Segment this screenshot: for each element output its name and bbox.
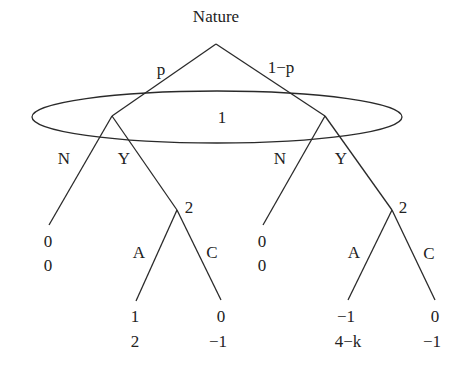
edge-right-N: [263, 116, 325, 225]
move-label-right-Y: Y: [335, 149, 347, 168]
information-set-player-label: 1: [218, 108, 227, 127]
nature-label: Nature: [193, 7, 239, 26]
payoff-left-A-p1: 1: [131, 307, 140, 326]
payoff-left-N-p1: 0: [44, 232, 53, 251]
move-label-left-C: C: [206, 243, 217, 262]
player2-left-node-label: 2: [185, 198, 194, 217]
edge-nature-p: [112, 44, 216, 116]
payoff-right-N-p1: 0: [258, 232, 267, 251]
move-label-right-A: A: [348, 243, 361, 262]
move-label-p: p: [157, 60, 166, 79]
move-label-left-A: A: [133, 243, 146, 262]
payoff-right-A-p2: 4−k: [335, 332, 362, 351]
game-tree: Nature p 1−p 1 N Y 0 0 2 A C 1 2 0 −1 N …: [0, 0, 469, 369]
payoff-left-A-p2: 2: [131, 332, 140, 351]
payoff-right-C-p1: 0: [431, 307, 440, 326]
payoff-right-N-p2: 0: [258, 256, 267, 275]
payoff-right-C-p2: −1: [423, 332, 441, 351]
move-label-1-minus-p: 1−p: [268, 58, 295, 77]
edge-left-N: [49, 116, 112, 225]
payoff-left-C-p1: 0: [217, 307, 226, 326]
edge-nature-1-p: [216, 44, 325, 116]
payoff-left-N-p2: 0: [44, 256, 53, 275]
move-label-right-N: N: [274, 149, 286, 168]
player2-right-node-label: 2: [399, 198, 408, 217]
payoff-right-A-p1: −1: [337, 307, 355, 326]
payoff-left-C-p2: −1: [209, 332, 227, 351]
move-label-left-Y: Y: [118, 149, 130, 168]
move-label-right-C: C: [423, 244, 434, 263]
move-label-left-N: N: [58, 149, 70, 168]
